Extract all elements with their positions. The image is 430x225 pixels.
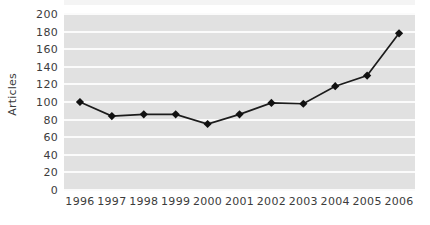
x-tick-label-2004: 2004 <box>321 195 350 208</box>
x-tick-label-1997: 1997 <box>97 195 126 208</box>
y-tick-label-180: 180 <box>36 25 58 38</box>
x-tick-label-1996: 1996 <box>65 195 94 208</box>
y-tick-label-120: 120 <box>36 78 58 91</box>
y-tick-label-40: 40 <box>43 148 58 161</box>
x-tick-label-2002: 2002 <box>257 195 286 208</box>
y-tick-label-200: 200 <box>36 8 58 21</box>
y-axis-tick-labels: 020406080100120140160180200 <box>0 0 58 225</box>
y-tick-label-100: 100 <box>36 96 58 109</box>
data-point-2001 <box>235 110 243 118</box>
y-tick-label-80: 80 <box>43 113 58 126</box>
data-point-2003 <box>299 100 307 108</box>
data-point-2004 <box>331 82 339 90</box>
x-tick-label-2003: 2003 <box>289 195 318 208</box>
data-point-2000 <box>203 120 211 128</box>
series-articles <box>64 14 415 190</box>
x-tick-label-2005: 2005 <box>353 195 382 208</box>
x-tick-label-2006: 2006 <box>384 195 413 208</box>
y-tick-label-140: 140 <box>36 60 58 73</box>
y-tick-label-160: 160 <box>36 43 58 56</box>
series-markers-group <box>76 29 403 128</box>
data-point-1996 <box>76 98 84 106</box>
x-tick-label-2000: 2000 <box>193 195 222 208</box>
chart-container: Articles 020406080100120140160180200 199… <box>0 0 430 225</box>
data-point-1998 <box>140 110 148 118</box>
x-tick-label-1998: 1998 <box>129 195 158 208</box>
y-tick-label-20: 20 <box>43 166 58 179</box>
data-point-2002 <box>267 99 275 107</box>
data-point-1997 <box>108 112 116 120</box>
data-point-1999 <box>172 110 180 118</box>
clipped-top-band <box>64 0 415 5</box>
y-tick-label-60: 60 <box>43 131 58 144</box>
x-axis-tick-labels: 1996199719981999200020012002200320042005… <box>0 195 430 217</box>
plot-area <box>64 14 415 190</box>
x-tick-label-2001: 2001 <box>225 195 254 208</box>
x-tick-label-1999: 1999 <box>161 195 190 208</box>
